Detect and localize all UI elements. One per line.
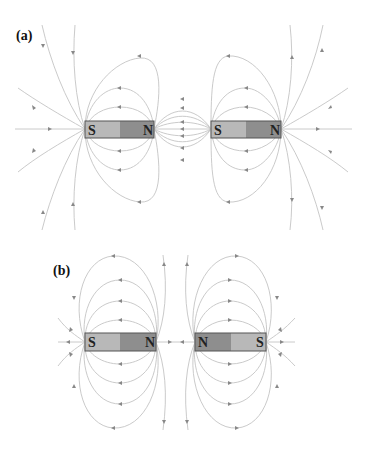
pole-label: S bbox=[256, 335, 264, 350]
magnetic-field-diagram: S N S N bbox=[0, 0, 367, 451]
pole-label: S bbox=[88, 335, 96, 350]
panel-b-magnet-left: S N bbox=[85, 333, 156, 351]
pole-label: N bbox=[270, 123, 280, 138]
pole-label: N bbox=[145, 335, 155, 350]
pole-label: S bbox=[214, 123, 222, 138]
pole-label: S bbox=[88, 123, 96, 138]
panel-a-magnet-left: S N bbox=[85, 121, 154, 138]
panel-a-magnet-right: S N bbox=[211, 121, 281, 138]
panel-b-magnet-right: N S bbox=[195, 333, 266, 351]
pole-label: N bbox=[143, 123, 153, 138]
pole-label: N bbox=[198, 335, 208, 350]
